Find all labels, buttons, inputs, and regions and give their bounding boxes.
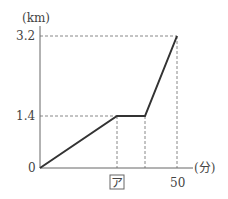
y-tick-1-4: 1.4 <box>16 109 35 123</box>
y-tick-3-2: 3.2 <box>16 29 35 43</box>
data-line <box>40 36 177 168</box>
x-tick-50: 50 <box>170 176 185 190</box>
dashed-guides <box>40 36 177 168</box>
distance-time-chart: (km) 3.2 1.4 0 ア 50 (分) <box>0 0 228 199</box>
y-axis-label: (km) <box>22 11 50 25</box>
x-axis-label: (分) <box>194 161 215 175</box>
x-tick-a: ア <box>111 176 123 190</box>
origin-label: 0 <box>28 161 36 175</box>
